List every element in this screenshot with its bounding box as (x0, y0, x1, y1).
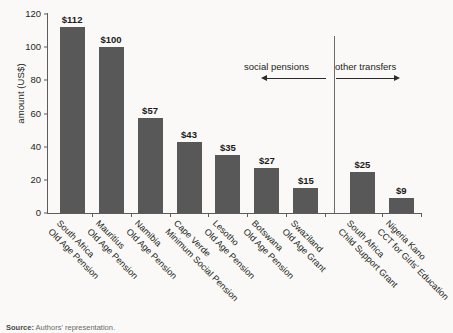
bar (99, 47, 124, 213)
annotation-other-transfers-label: other transfers (335, 61, 396, 72)
y-tick-label: 80 (5, 76, 41, 86)
x-tick-mark (208, 213, 209, 217)
bar-value-label: $35 (205, 142, 251, 153)
y-tick-label: 60 (5, 109, 41, 119)
x-tick-mark (247, 213, 248, 217)
y-tick-label: 0 (5, 208, 41, 218)
y-tick-label: 20 (5, 175, 41, 185)
x-tick-mark (382, 213, 383, 217)
source-note: Source: Authors' representation. (6, 323, 115, 332)
y-tick-label: 120 (5, 9, 41, 19)
bar-value-label: $9 (378, 185, 424, 196)
annotation-social-pensions-label: social pensions (244, 61, 309, 72)
bar (389, 198, 414, 213)
annotation-social-pensions-arrow-line (266, 78, 326, 79)
x-axis-line (47, 213, 421, 214)
bar (177, 142, 202, 213)
source-text: Authors' representation. (36, 323, 115, 332)
annotation-other-transfers-arrowhead-icon (394, 75, 400, 81)
bar-value-label: $25 (339, 159, 385, 170)
x-tick-mark (421, 213, 422, 217)
annotation-other-transfers-arrow-line (336, 78, 394, 79)
bar-value-label: $27 (244, 155, 290, 166)
x-tick-mark (92, 213, 93, 217)
bar (293, 188, 318, 213)
bar-value-label: $15 (283, 175, 329, 186)
bar (350, 172, 375, 213)
x-tick-mark (325, 213, 326, 217)
bar (60, 27, 85, 213)
y-tick-label: 40 (5, 142, 41, 152)
x-tick-mark (170, 213, 171, 217)
bar-value-label: $100 (88, 34, 134, 45)
annotation-social-pensions-arrowhead-icon (261, 75, 267, 81)
plot-area: $112$100$57$43$35$27$15$25$9 social pens… (48, 14, 420, 213)
x-tick-mark (131, 213, 132, 217)
bar (254, 168, 279, 213)
bar (138, 118, 163, 213)
x-tick-mark (286, 213, 287, 217)
bar-value-label: $112 (49, 14, 95, 25)
source-prefix: Source: (6, 323, 34, 332)
bar-value-label: $43 (166, 129, 212, 140)
y-tick-label: 100 (5, 42, 41, 52)
bar (215, 155, 240, 213)
bar-value-label: $57 (127, 105, 173, 116)
